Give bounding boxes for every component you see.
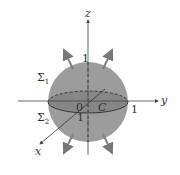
- origin-label: 0: [76, 102, 83, 113]
- y-tick-label: 1: [131, 104, 138, 115]
- z-tick-label: 1: [82, 53, 89, 64]
- sphere-diagram: [0, 0, 180, 175]
- sigma-1-label: Σ1: [37, 72, 49, 86]
- x-axis-label: x: [35, 146, 41, 157]
- normal-arrow: [64, 50, 73, 69]
- sigma-2-label: Σ2: [37, 112, 49, 126]
- z-axis-label: z: [85, 8, 91, 19]
- normal-arrow: [103, 50, 112, 69]
- curve-c-label: C: [98, 102, 106, 113]
- y-axis-label: y: [161, 95, 167, 106]
